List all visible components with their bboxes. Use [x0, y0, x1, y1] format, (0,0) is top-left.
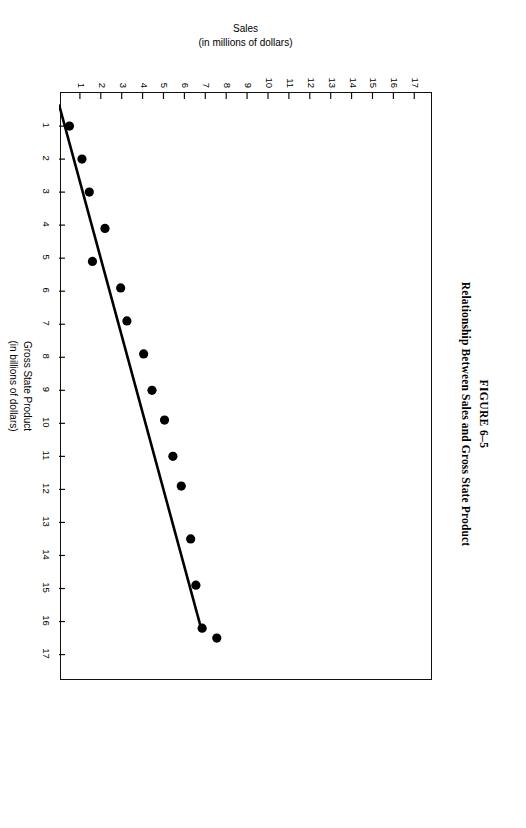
x-axis-tick-label: 9: [41, 379, 52, 399]
x-axis-tick-label: 11: [41, 445, 52, 465]
x-axis-tick-label: 5: [41, 247, 52, 267]
data-point: [212, 633, 221, 642]
figure-title-block: FIGURE 6–5 Relationship Between Sales an…: [456, 0, 492, 828]
y-axis-label: Sales (in millions of dollars): [60, 16, 432, 56]
plot-area: [60, 92, 432, 680]
data-point: [88, 257, 97, 266]
y-axis-tick-label: 5: [160, 66, 171, 88]
data-point: [177, 482, 186, 491]
y-axis-label-units: (in millions of dollars): [199, 36, 293, 50]
y-axis-tick-label: 14: [348, 66, 359, 88]
rotated-figure-canvas: FIGURE 6–5 Relationship Between Sales an…: [0, 0, 526, 828]
data-point: [160, 415, 169, 424]
data-point: [85, 188, 94, 197]
y-axis-tick-label: 6: [180, 66, 191, 88]
y-axis-tick-label: 2: [97, 66, 108, 88]
figure-title: Relationship Between Sales and Gross Sta…: [456, 0, 474, 828]
x-axis-tick-label: 1: [41, 115, 52, 135]
x-axis-tick-label: 2: [41, 148, 52, 168]
x-axis-tick-label: 8: [41, 346, 52, 366]
y-axis-tick-label: 13: [327, 66, 338, 88]
y-axis-tick-label: 1: [76, 66, 87, 88]
x-axis-tick-label: 12: [41, 478, 52, 498]
x-axis-tick-label: 13: [41, 511, 52, 531]
x-axis-tick-label: 16: [41, 611, 52, 631]
scatter-plot-svg: [59, 93, 431, 681]
data-point: [100, 224, 109, 233]
figure-page: FIGURE 6–5 Relationship Between Sales an…: [0, 0, 526, 828]
y-axis-tick-label: 17: [410, 66, 421, 88]
x-axis-label-main: Gross State Product: [22, 341, 33, 431]
y-axis-tick-label: 8: [222, 66, 233, 88]
data-point: [116, 283, 125, 292]
y-axis-tick-label: 15: [368, 66, 379, 88]
x-axis-tick-label: 7: [41, 313, 52, 333]
x-axis-tick-label: 17: [41, 644, 52, 664]
data-point: [147, 386, 156, 395]
y-axis-tick-label: 9: [243, 66, 254, 88]
y-axis-tick-label: 11: [285, 66, 296, 88]
x-axis-tick-label: 4: [41, 214, 52, 234]
x-axis-tick-label: 15: [41, 578, 52, 598]
x-axis-tick-label: 3: [41, 181, 52, 201]
x-axis-tick-label: 6: [41, 280, 52, 300]
y-axis-tick-label: 3: [118, 66, 129, 88]
data-point: [122, 316, 131, 325]
data-point: [65, 121, 74, 130]
x-axis-label: Gross State Product (in billions of doll…: [7, 92, 34, 680]
data-point: [191, 581, 200, 590]
data-point: [198, 624, 207, 633]
y-axis-tick-label: 12: [306, 66, 317, 88]
data-point: [77, 154, 86, 163]
data-point: [139, 349, 148, 358]
y-axis-tick-label: 16: [389, 66, 400, 88]
figure-number: FIGURE 6–5: [474, 0, 492, 828]
data-point: [168, 452, 177, 461]
regression-line: [59, 105, 202, 630]
x-axis-tick-label: 14: [41, 544, 52, 564]
x-axis-tick-label: 10: [41, 412, 52, 432]
y-axis-label-main: Sales: [233, 24, 258, 35]
y-axis-tick-label: 7: [201, 66, 212, 88]
x-axis-label-units: (in billions of dollars): [7, 92, 21, 680]
y-axis-tick-label: 4: [139, 66, 150, 88]
y-axis-tick-label: 10: [264, 66, 275, 88]
data-point: [186, 534, 195, 543]
